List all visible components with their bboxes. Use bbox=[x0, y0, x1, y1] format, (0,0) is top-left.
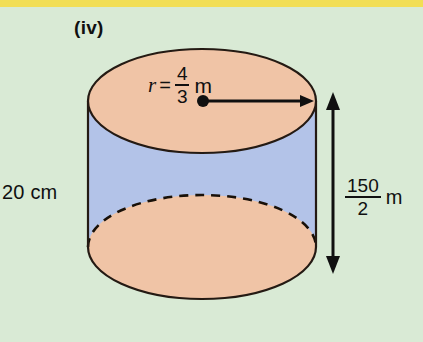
radius-numerator: 4 bbox=[175, 64, 190, 84]
left-measure-label: 20 cm bbox=[2, 182, 57, 202]
height-fraction: 150 2 bbox=[345, 176, 381, 218]
height-arrowhead-down bbox=[326, 256, 340, 274]
height-arrowhead-up bbox=[326, 92, 340, 110]
radius-unit: m bbox=[189, 75, 212, 96]
radius-fraction: 4 3 bbox=[175, 64, 190, 106]
radius-equals: = bbox=[159, 75, 175, 95]
part-label: (iv) bbox=[74, 18, 104, 37]
height-denominator: 2 bbox=[356, 198, 371, 218]
radius-variable: r bbox=[148, 75, 159, 96]
height-numerator: 150 bbox=[345, 176, 381, 196]
height-label: 150 2 m bbox=[345, 176, 402, 218]
radius-label: r = 4 3 m bbox=[148, 64, 212, 106]
radius-denominator: 3 bbox=[175, 86, 190, 106]
cylinder-figure bbox=[0, 0, 423, 342]
diagram-canvas: (iv) 20 cm r = 4 3 m 150 2 m bbox=[0, 0, 423, 342]
height-unit: m bbox=[381, 187, 403, 207]
